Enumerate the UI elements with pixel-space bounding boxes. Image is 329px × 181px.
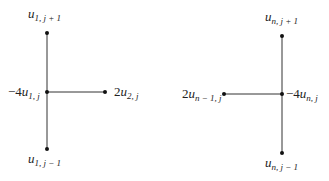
right-center-node bbox=[280, 92, 284, 96]
right-bottom-label: un, j − 1 bbox=[265, 155, 298, 172]
right-left-label: 2un − 1, j bbox=[182, 86, 222, 103]
right-bottom-node bbox=[280, 151, 284, 155]
left-center-node bbox=[45, 90, 49, 94]
left-stencil: u1, j + 1 −4u1, j 2u2, j u1, j − 1 bbox=[8, 6, 139, 168]
left-right-label: 2u2, j bbox=[114, 84, 139, 101]
left-bottom-label: u1, j − 1 bbox=[28, 151, 61, 168]
right-left-node bbox=[222, 92, 226, 96]
left-top-label: u1, j + 1 bbox=[28, 6, 61, 23]
right-top-label: un, j + 1 bbox=[265, 9, 298, 26]
left-center-label: −4u1, j bbox=[8, 84, 40, 101]
left-right-node bbox=[103, 90, 107, 94]
right-stencil: un, j + 1 −4un, j 2un − 1, j un, j − 1 bbox=[182, 9, 318, 172]
left-bottom-node bbox=[45, 147, 49, 151]
right-top-node bbox=[280, 34, 284, 38]
left-top-node bbox=[45, 31, 49, 35]
stencil-diagram: u1, j + 1 −4u1, j 2u2, j u1, j − 1 un, j… bbox=[0, 0, 329, 181]
right-center-label: −4un, j bbox=[286, 86, 318, 103]
